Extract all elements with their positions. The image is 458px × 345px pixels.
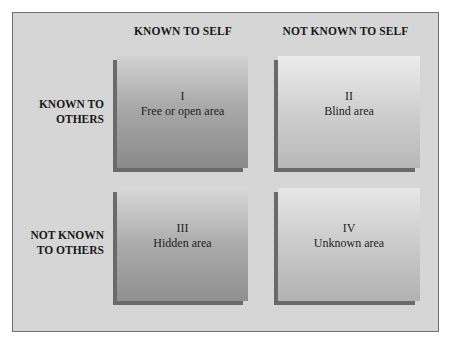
row-header-known-to-others: KNOWN TO OTHERS (20, 97, 104, 127)
quadrant-open-area: I Free or open area (113, 56, 248, 172)
quadrant-face: I Free or open area (117, 56, 248, 168)
quadrant-numeral: II (345, 89, 353, 104)
quadrant-face: II Blind area (278, 56, 420, 168)
quadrant-numeral: IV (343, 221, 356, 236)
quadrant-hidden-area: III Hidden area (113, 188, 248, 305)
quadrant-label: Blind area (324, 104, 374, 119)
quadrant-face: III Hidden area (117, 188, 248, 301)
quadrant-unknown-area: IV Unknown area (274, 188, 420, 305)
row-header-line: KNOWN TO (20, 97, 104, 112)
quadrant-numeral: I (181, 89, 185, 104)
quadrant-label: Unknown area (314, 236, 384, 251)
row-header-line: NOT KNOWN (14, 228, 104, 243)
column-header-not-known-to-self: NOT KNOWN TO SELF (268, 25, 423, 37)
quadrant-numeral: III (177, 221, 189, 236)
quadrant-blind-area: II Blind area (274, 56, 420, 172)
row-header-line: TO OTHERS (14, 243, 104, 258)
row-header-line: OTHERS (20, 112, 104, 127)
quadrant-label: Hidden area (153, 236, 211, 251)
row-header-not-known-to-others: NOT KNOWN TO OTHERS (14, 228, 104, 258)
quadrant-face: IV Unknown area (278, 188, 420, 301)
quadrant-label: Free or open area (141, 104, 225, 119)
column-header-known-to-self: KNOWN TO SELF (118, 25, 248, 37)
